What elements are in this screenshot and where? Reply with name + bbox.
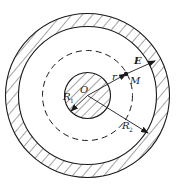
diagram-canvas: O r M E R 1 R 2 <box>0 0 176 187</box>
label-E: E <box>133 55 142 66</box>
capacitor-diagram: O r M E R 1 R 2 <box>0 0 176 187</box>
svg-text:1: 1 <box>70 97 74 104</box>
svg-text:2: 2 <box>129 126 133 133</box>
label-M: M <box>129 75 141 86</box>
label-O: O <box>80 84 88 95</box>
point-M <box>124 72 128 76</box>
